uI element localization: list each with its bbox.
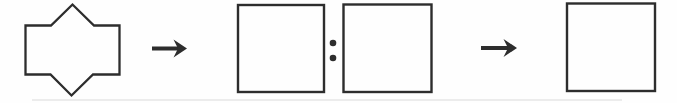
- arrow-right-icon: [481, 39, 517, 57]
- shape-analogy-diagram: [0, 0, 677, 103]
- arrow-right-icon: [152, 40, 187, 58]
- blank-square-b: [344, 5, 432, 93]
- blank-square-a: [238, 5, 324, 92]
- colon-dot-bottom: [330, 55, 337, 62]
- colon-separator: [330, 40, 337, 62]
- colon-dot-top: [330, 40, 337, 47]
- notched-polygon-shape: [26, 5, 120, 96]
- blank-square-answer: [567, 4, 655, 92]
